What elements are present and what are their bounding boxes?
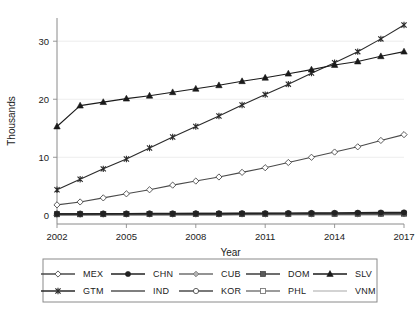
marker-open-diamond [77, 199, 83, 205]
marker-filled-triangle [401, 48, 407, 54]
marker-open-diamond [170, 182, 176, 188]
marker-open-diamond [401, 132, 407, 138]
marker-open-diamond [355, 144, 361, 150]
x-tick-label: 2014 [324, 231, 345, 242]
marker-filled-circle [147, 211, 152, 216]
marker-filled-circle [170, 211, 175, 216]
marker-filled-circle [54, 211, 59, 216]
marker-star [286, 81, 291, 87]
legend-label-chn: CHN [153, 269, 173, 279]
marker-star [147, 145, 152, 151]
marker-open-square [261, 289, 266, 294]
marker-star [378, 36, 383, 42]
marker-star [193, 123, 198, 129]
marker-star [239, 102, 244, 108]
marker-open-circle [193, 288, 198, 293]
marker-filled-circle [286, 210, 291, 215]
marker-open-diamond [100, 195, 106, 201]
plot-frame [57, 18, 404, 224]
marker-star [170, 134, 175, 140]
marker-star [54, 187, 59, 193]
marker-filled-circle [239, 211, 244, 216]
y-tick-label: 0 [44, 210, 49, 221]
chart-container: 0102030 200220052008201120142017 Thousan… [0, 0, 420, 309]
marker-open-diamond [332, 149, 338, 155]
series-line-slv [57, 52, 404, 127]
marker-filled-circle [125, 271, 130, 276]
marker-filled-circle [78, 211, 83, 216]
marker-filled-circle [216, 211, 221, 216]
marker-filled-circle [124, 211, 129, 216]
marker-filled-circle [193, 211, 198, 216]
line-chart: 0102030 200220052008201120142017 Thousan… [0, 0, 420, 309]
marker-open-diamond [54, 202, 60, 208]
marker-star [101, 166, 106, 172]
legend-label-dom: DOM [288, 269, 310, 279]
marker-open-diamond [285, 159, 291, 165]
marker-star [263, 91, 268, 97]
marker-open-diamond [146, 187, 152, 193]
y-axis-title: Thousands [6, 96, 17, 145]
series-gtm [54, 22, 406, 193]
marker-filled-circle [101, 211, 106, 216]
legend-label-kor: KOR [221, 286, 241, 296]
axis-ticks [53, 41, 404, 228]
series-slv [54, 48, 407, 129]
marker-open-diamond [262, 165, 268, 171]
y-tick-label: 30 [38, 36, 49, 47]
x-tick-label: 2011 [255, 231, 275, 242]
x-axis-tick-labels: 200220052008201120142017 [46, 231, 414, 242]
x-tick-label: 2002 [46, 231, 67, 242]
marker-open-diamond [193, 178, 199, 184]
legend-label-gtm: GTM [83, 286, 104, 296]
marker-filled-circle [401, 210, 406, 215]
x-tick-label: 2008 [185, 231, 206, 242]
legend-label-cub: CUB [221, 269, 241, 279]
legend-label-mex: MEX [83, 269, 103, 279]
marker-star [78, 176, 83, 182]
marker-filled-circle [332, 210, 337, 215]
marker-star [401, 22, 406, 28]
marker-filled-circle [263, 211, 268, 216]
marker-star [355, 48, 360, 54]
y-tick-label: 20 [38, 94, 49, 105]
y-axis-tick-labels: 0102030 [38, 36, 49, 221]
marker-filled-circle [309, 210, 314, 215]
marker-filled-circle [355, 210, 360, 215]
legend-label-slv: SLV [355, 269, 372, 279]
marker-filled-circle [378, 210, 383, 215]
series-line-gtm [57, 25, 404, 190]
marker-open-diamond [216, 174, 222, 180]
data-series-group [54, 22, 407, 218]
series-line-mex [57, 135, 404, 205]
chart-legend: MEXCHNCUBDOMSLVGTMINDKORPHLVNM [41, 259, 377, 302]
legend-label-phl: PHL [288, 286, 306, 296]
marker-open-diamond [123, 191, 129, 197]
marker-open-diamond [378, 137, 384, 143]
marker-star [216, 113, 221, 119]
x-axis-title: Year [220, 247, 241, 258]
marker-open-diamond [308, 154, 314, 160]
x-tick-label: 2005 [116, 231, 137, 242]
grid-lines [57, 41, 404, 215]
x-tick-label: 2017 [393, 231, 414, 242]
marker-filled-square [261, 272, 266, 277]
legend-label-ind: IND [153, 286, 169, 296]
marker-star [124, 156, 129, 162]
legend-label-vnm: VNM [355, 286, 376, 296]
series-mex [54, 132, 407, 208]
y-tick-label: 10 [38, 152, 49, 163]
marker-open-diamond [239, 169, 245, 175]
